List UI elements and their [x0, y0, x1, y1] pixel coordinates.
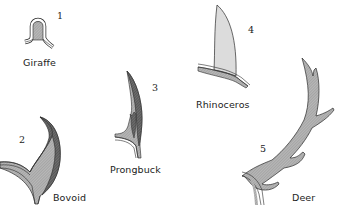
- label-bovoid: Bovoid: [53, 192, 86, 203]
- label-deer: Deer: [292, 192, 315, 203]
- diagram-canvas: [0, 0, 350, 212]
- giraffe-ossicone-figure: [25, 20, 53, 47]
- figure-number-5: 5: [260, 143, 266, 154]
- rhinoceros-horn-figure: [198, 5, 250, 88]
- horn-types-diagram: 1 Giraffe 2 Bovoid 3 Prongbuck 4 Rhinoce…: [0, 0, 350, 212]
- bovoid-horn-figure: [0, 117, 60, 204]
- figure-number-4: 4: [248, 24, 254, 35]
- deer-antler-figure: [242, 58, 334, 205]
- figure-number-1: 1: [57, 10, 63, 21]
- prongbuck-horn-figure: [115, 71, 142, 158]
- label-giraffe: Giraffe: [23, 57, 56, 68]
- label-prongbuck: Prongbuck: [110, 164, 161, 175]
- label-rhinoceros: Rhinoceros: [196, 99, 250, 110]
- figure-number-2: 2: [19, 134, 25, 145]
- figure-number-3: 3: [152, 82, 158, 93]
